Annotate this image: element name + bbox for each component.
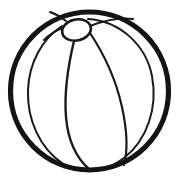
beach-ball-illustration [0, 0, 179, 182]
artboard [0, 0, 179, 182]
